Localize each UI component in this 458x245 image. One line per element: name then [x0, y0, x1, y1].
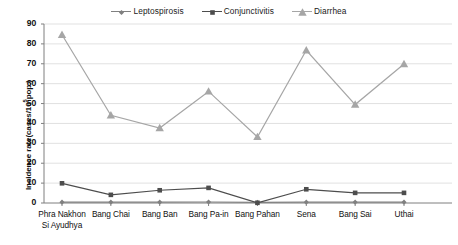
y-axis-tick: 90: [16, 18, 36, 28]
y-axis-tick: 70: [16, 58, 36, 68]
diamond-marker-icon: [111, 7, 131, 16]
legend-marker: [298, 8, 305, 15]
chart-legend: Leptospirosis Conjunctivitis Diarrhea: [0, 6, 458, 16]
legend-marker: [117, 8, 124, 15]
y-axis-tick: 10: [16, 177, 36, 187]
y-axis-tick: 50: [16, 98, 36, 108]
legend-label: Leptospirosis: [133, 6, 183, 16]
legend-label: Conjunctivitis: [224, 6, 274, 16]
legend-item-diarrhea[interactable]: Diarrhea: [292, 6, 347, 16]
y-axis-tick: 80: [16, 38, 36, 48]
series-diarrhea: [58, 31, 408, 141]
square-marker-icon: [202, 7, 222, 16]
triangle-marker-icon: [292, 7, 312, 16]
series-leptospirosis: [59, 199, 406, 205]
y-axis-tick: 20: [16, 157, 36, 167]
series-conjunctivitis: [60, 181, 407, 205]
y-axis-tick: 30: [16, 137, 36, 147]
gridlines: [44, 24, 452, 203]
y-axis-tick: 0: [16, 197, 36, 207]
legend-item-leptospirosis[interactable]: Leptospirosis: [111, 6, 183, 16]
y-axis-tick: 40: [16, 117, 36, 127]
legend-item-conjunctivitis[interactable]: Conjunctivitis: [202, 6, 274, 16]
incidence-rate-line-chart: Leptospirosis Conjunctivitis Diarrhea In…: [0, 0, 458, 245]
legend-label: Diarrhea: [314, 6, 347, 16]
x-axis-tick: Uthai: [366, 209, 442, 220]
y-axis-tick: 60: [16, 78, 36, 88]
legend-marker: [208, 8, 215, 15]
